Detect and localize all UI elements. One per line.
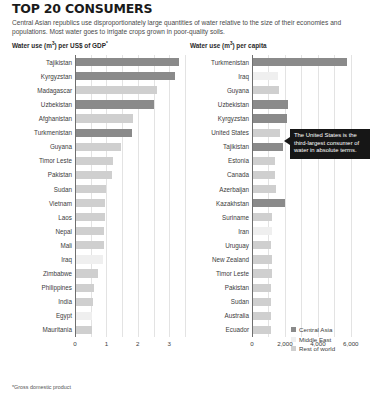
bar-row: Afghanistan xyxy=(75,112,185,126)
annotation-callout: The United States is the third-largest c… xyxy=(290,129,370,159)
bar xyxy=(252,312,271,320)
bar-row: New Zealand xyxy=(252,252,364,266)
bar-row: Suriname xyxy=(252,210,364,224)
legend-swatch-icon xyxy=(291,327,296,332)
bar xyxy=(252,227,272,235)
bar-row: Egypt xyxy=(75,309,185,323)
chart-gdp: TajikistanKyrgyzstanMadagascarUzbekistan… xyxy=(12,55,187,350)
bar xyxy=(75,86,157,94)
bar-label: Mauritania xyxy=(43,326,75,333)
bar-row: Iran xyxy=(252,224,364,238)
bar-label: Suriname xyxy=(222,214,252,221)
axis-baseline xyxy=(252,55,253,337)
bar xyxy=(75,312,92,320)
bar xyxy=(252,100,288,108)
bar-row: Kyrgyzstan xyxy=(75,69,185,83)
legend: Central AsiaMiddle EastRest of world xyxy=(291,325,335,354)
bar xyxy=(252,86,279,94)
bar-row: Kyrgyzstan xyxy=(252,112,364,126)
legend-label: Rest of world xyxy=(299,345,335,352)
bar-row: Tajikistan xyxy=(75,55,185,69)
bar-label: Tajikistan xyxy=(46,59,75,66)
bar-row: Pakistan xyxy=(252,281,364,295)
bar-label: Azerbaijan xyxy=(219,186,252,193)
bar xyxy=(252,58,347,66)
bar-row: Iraq xyxy=(75,252,185,266)
bar-row: Iraq xyxy=(252,69,364,83)
bar-row: Sudan xyxy=(252,295,364,309)
bar-label: Laos xyxy=(58,214,75,221)
bar-label: Zimbabwe xyxy=(43,270,75,277)
chart-panel-gdp: Water use (m3) per US$ of GDP* Tajikista… xyxy=(12,40,187,350)
bar xyxy=(75,255,103,263)
bar-label: India xyxy=(58,298,75,305)
chart-title-gdp-footnote-mark: * xyxy=(106,41,108,46)
bar xyxy=(252,143,283,151)
bar-row: India xyxy=(75,295,185,309)
bar-label: Iran xyxy=(238,228,252,235)
bar-label: Madagascar xyxy=(37,87,75,94)
axis-tick-label: 0 xyxy=(250,340,253,347)
bar-row: Vietnam xyxy=(75,196,185,210)
infographic-page: TOP 20 CONSUMERS Central Asian republics… xyxy=(0,0,375,401)
bar xyxy=(252,171,275,179)
bar xyxy=(252,241,271,249)
bar xyxy=(75,171,112,179)
bar-row: Mauritania xyxy=(75,323,185,337)
bar-label: Estonia xyxy=(228,157,252,164)
bar-row: Uruguay xyxy=(252,238,364,252)
bar-label: Kazakhstan xyxy=(216,200,252,207)
bar xyxy=(252,298,271,306)
gridline xyxy=(185,55,186,337)
chart-title-gdp-tail: ) per US$ of GDP xyxy=(54,42,106,49)
bar-label: Afghanistan xyxy=(39,115,75,122)
bar xyxy=(75,129,132,137)
bar xyxy=(75,199,105,207)
bar-label: United States xyxy=(211,129,252,136)
bar xyxy=(252,255,272,263)
legend-swatch-icon xyxy=(291,337,296,342)
bar-label: Sudan xyxy=(54,186,75,193)
axis-tick-label: 6,000 xyxy=(343,340,358,347)
bar-row: Mali xyxy=(75,238,185,252)
chart-title-capita-main: Water use (m xyxy=(190,42,230,49)
bar-row: Zimbabwe xyxy=(75,267,185,281)
bar-label: Kyrgyzstan xyxy=(218,115,252,122)
bar-row: Madagascar xyxy=(75,83,185,97)
bar xyxy=(75,298,93,306)
bar-row: Timor Leste xyxy=(252,267,364,281)
chart-title-capita: Water use (m3) per capita xyxy=(190,40,365,50)
bar xyxy=(252,185,276,193)
bar xyxy=(75,241,104,249)
annotation-text: The United States is the third-largest c… xyxy=(294,132,359,153)
bar-label: Turkmenistan xyxy=(211,59,252,66)
bar-label: Timor Leste xyxy=(39,157,75,164)
bar xyxy=(252,114,287,122)
chart-title-gdp: Water use (m3) per US$ of GDP* xyxy=(12,40,187,50)
bar-row: Turkmenistan xyxy=(252,55,364,69)
axis-tick-label: 2 xyxy=(136,340,139,347)
axis-tick-label: 3 xyxy=(168,340,171,347)
bar xyxy=(252,213,272,221)
bar-label: Sudan xyxy=(231,298,252,305)
bar-label: Nepal xyxy=(56,228,75,235)
bar xyxy=(75,58,179,66)
bar-label: Tajikistan xyxy=(223,143,252,150)
bar-label: Philippines xyxy=(42,284,75,291)
annotation-arrow-icon xyxy=(284,137,290,145)
bar-label: Ecuador xyxy=(226,326,252,333)
legend-item: Middle East xyxy=(291,335,335,345)
bar xyxy=(252,326,271,334)
bar xyxy=(75,100,154,108)
bar-label: Mali xyxy=(60,242,75,249)
bar-label: Vietnam xyxy=(49,200,75,207)
bar-row: Nepal xyxy=(75,224,185,238)
bar xyxy=(75,185,106,193)
bar-label: Pakistan xyxy=(48,171,75,178)
bar-label: Timor Leste xyxy=(216,270,252,277)
bar xyxy=(75,284,94,292)
bar xyxy=(75,227,104,235)
chart-capita: TurkmenistanIraqGuyanaUzbekistanKyrgyzst… xyxy=(190,55,365,350)
bar-row: Australia xyxy=(252,309,364,323)
chart-title-gdp-main: Water use (m xyxy=(12,42,52,49)
